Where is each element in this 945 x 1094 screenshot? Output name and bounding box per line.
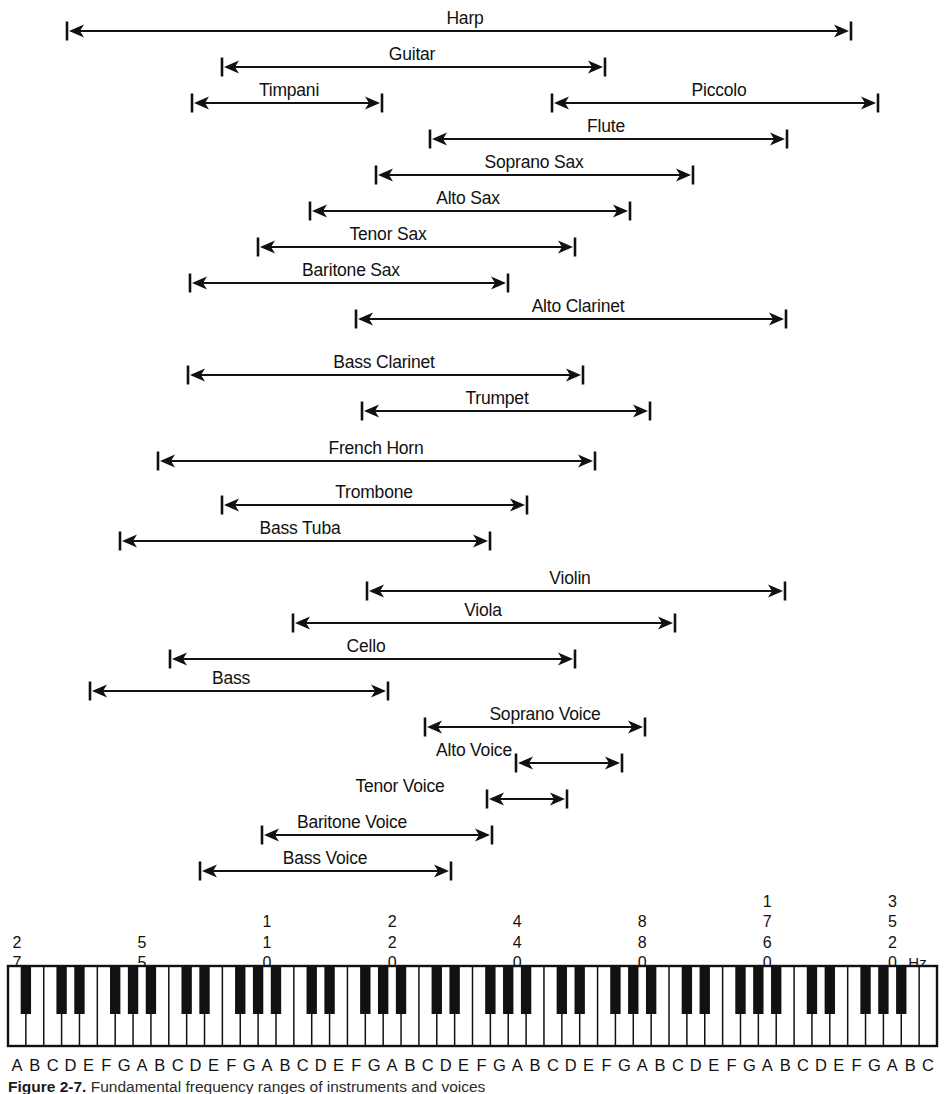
note-letter: C	[547, 1056, 559, 1074]
frequency-digit: 7	[763, 912, 772, 933]
frequency-digit: 5	[888, 912, 897, 933]
note-letter: B	[655, 1056, 666, 1074]
note-letter: C	[47, 1056, 59, 1074]
range-label: Tenor Voice	[355, 778, 444, 795]
frequency-digit: 2	[388, 912, 397, 933]
note-letter: F	[852, 1056, 862, 1074]
black-key	[432, 966, 442, 1014]
frequency-digit: 4	[513, 933, 522, 954]
black-key	[860, 966, 870, 1014]
range-label: Alto Sax	[436, 190, 500, 207]
black-key	[128, 966, 138, 1014]
note-letter: C	[797, 1056, 809, 1074]
note-letter: D	[690, 1056, 702, 1074]
frequency-range-chart: HarpGuitarTimpaniPiccoloFluteSoprano Sax…	[0, 0, 945, 1094]
note-letter: E	[458, 1056, 469, 1074]
black-key	[396, 966, 406, 1014]
range-label: Soprano Voice	[489, 706, 600, 723]
range-label: French Horn	[328, 440, 423, 457]
frequency-digit: 2	[12, 933, 21, 954]
note-letter: G	[118, 1056, 131, 1074]
note-letter: D	[815, 1056, 827, 1074]
note-letter: E	[583, 1056, 594, 1074]
note-letter: G	[743, 1056, 756, 1074]
note-letter: D	[565, 1056, 577, 1074]
frequency-digit: 2	[888, 933, 897, 954]
note-letter: A	[11, 1056, 22, 1074]
note-letter: A	[136, 1056, 147, 1074]
note-letter: B	[29, 1056, 40, 1074]
note-letter: B	[154, 1056, 165, 1074]
range-arrow	[516, 754, 622, 773]
range-label: Bass Clarinet	[333, 354, 434, 371]
frequency-digit: 1	[763, 892, 772, 913]
range-label: Soprano Sax	[485, 154, 584, 171]
range-label: Bass Voice	[283, 850, 368, 867]
note-letter: A	[762, 1056, 773, 1074]
note-letter: B	[404, 1056, 415, 1074]
piano-keyboard	[0, 963, 945, 1053]
range-label: Timpani	[259, 82, 319, 99]
range-label: Baritone Sax	[302, 262, 400, 279]
black-key	[307, 966, 317, 1014]
range-label: Viola	[464, 602, 502, 619]
frequency-digit: 1	[263, 912, 272, 933]
note-letter: F	[601, 1056, 611, 1074]
note-letter: G	[618, 1056, 631, 1074]
black-key	[646, 966, 656, 1014]
range-label: Alto Clarinet	[532, 298, 625, 315]
note-letter: C	[297, 1056, 309, 1074]
note-letter: E	[708, 1056, 719, 1074]
range-label: Trombone	[335, 484, 413, 501]
black-key	[378, 966, 388, 1014]
range-label: Flute	[587, 118, 625, 135]
note-letter: F	[727, 1056, 737, 1074]
range-arrow	[487, 790, 567, 809]
note-letter: D	[190, 1056, 202, 1074]
black-key	[449, 966, 459, 1014]
note-letter: G	[368, 1056, 381, 1074]
note-letter: A	[887, 1056, 898, 1074]
note-letter: B	[780, 1056, 791, 1074]
note-letter: E	[83, 1056, 94, 1074]
black-key	[771, 966, 781, 1014]
black-key	[146, 966, 156, 1014]
black-key	[575, 966, 585, 1014]
range-label: Trumpet	[465, 390, 528, 407]
note-letter: A	[387, 1056, 398, 1074]
frequency-digit: 5	[138, 933, 147, 954]
note-letter: C	[172, 1056, 184, 1074]
range-label: Piccolo	[691, 82, 746, 99]
note-letter: E	[833, 1056, 844, 1074]
note-letter: D	[315, 1056, 327, 1074]
black-key	[896, 966, 906, 1014]
note-letter: C	[422, 1056, 434, 1074]
range-label: Bass	[212, 670, 250, 687]
note-letter: E	[333, 1056, 344, 1074]
figure-caption-number: Figure 2-7.	[8, 1078, 86, 1094]
black-key	[21, 966, 31, 1014]
note-letter: C	[672, 1056, 684, 1074]
black-key	[700, 966, 710, 1014]
frequency-tick-label: 1760	[763, 892, 772, 974]
range-label: Alto Voice	[436, 742, 512, 759]
note-letter: A	[637, 1056, 648, 1074]
note-letter: C	[922, 1056, 934, 1074]
range-label: Bass Tuba	[260, 520, 341, 537]
black-key	[807, 966, 817, 1014]
black-key	[753, 966, 763, 1014]
black-key	[628, 966, 638, 1014]
black-key	[610, 966, 620, 1014]
note-letter: G	[243, 1056, 256, 1074]
note-letter: F	[476, 1056, 486, 1074]
black-key	[253, 966, 263, 1014]
note-letter: A	[512, 1056, 523, 1074]
figure-caption-text: Fundamental frequency ranges of instrume…	[91, 1078, 486, 1094]
note-letter-row: ABCDEFGABCDEFGABCDEFGABCDEFGABCDEFGABCDE…	[0, 1056, 945, 1078]
black-key	[521, 966, 531, 1014]
note-letter: F	[351, 1056, 361, 1074]
range-arrows-layer	[0, 0, 945, 940]
range-label: Tenor Sax	[350, 226, 427, 243]
frequency-tick-label: 3520	[888, 892, 897, 974]
range-label: Guitar	[389, 46, 435, 63]
